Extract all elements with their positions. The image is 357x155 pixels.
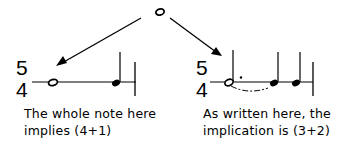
- right-measure: [210, 50, 313, 96]
- top-whole-note-icon: [155, 8, 165, 16]
- left-measure: [32, 52, 136, 96]
- right-caption-line-1: As written here, the: [203, 106, 331, 122]
- left-time-signature-numerator: 5: [16, 57, 28, 78]
- arrow-to-right-example-icon: [170, 18, 222, 56]
- implied-tie-icon: [231, 86, 268, 91]
- left-time-signature-denominator: 4: [16, 79, 28, 100]
- right-time-signature-denominator: 4: [196, 79, 208, 100]
- right-time-signature-numerator: 5: [196, 57, 208, 78]
- right-caption-line-2: implication is (3+2): [203, 123, 330, 139]
- arrow-to-left-example-icon: [56, 18, 141, 66]
- whole-note-icon: [48, 78, 58, 86]
- left-caption-line-2: implies (4+1): [24, 123, 111, 139]
- left-caption-line-1: The whole note here: [24, 106, 156, 122]
